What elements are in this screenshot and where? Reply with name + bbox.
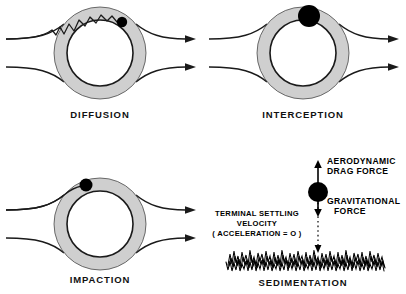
drag-force-label-line2: DRAG FORCE (327, 166, 388, 176)
gravitational-force-label-line1: GRAVITATIONAL (327, 196, 400, 206)
drag-force-label-line1: AERODYNAMIC (327, 156, 396, 166)
terminal-velocity-label-line1: TERMINAL SETTLING (215, 209, 299, 218)
intercepted-particle (298, 5, 320, 27)
fiber-cross-section-diffusion (54, 7, 146, 99)
particle-deposition-figure: DIFFUSION INTERCEPTION (0, 0, 406, 294)
deposited-particle (117, 17, 127, 27)
fiber-core (270, 20, 336, 86)
panel-caption-diffusion: DIFFUSION (70, 109, 129, 120)
terminal-velocity-label-line3: ( ACCELERATION = O ) (212, 229, 301, 238)
terminal-velocity-label-line2: VELOCITY (237, 219, 277, 228)
fiber-core (67, 20, 133, 86)
gravitational-force-label-line2: FORCE (334, 206, 366, 216)
fiber-core (67, 191, 133, 257)
panel-caption-interception: INTERCEPTION (262, 109, 344, 120)
panel-caption-sedimentation: SEDIMENTATION (259, 277, 348, 288)
panel-caption-impaction: IMPACTION (70, 274, 131, 285)
impacted-particle (80, 179, 93, 192)
